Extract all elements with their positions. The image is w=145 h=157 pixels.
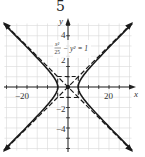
y-tick-label-neg4: −4 [56,124,66,134]
center-point [66,85,70,89]
x-tick-label-neg20: −20 [15,91,30,101]
equation-rest: − y² = 1 [63,44,88,53]
x-axis-label: x [133,89,138,99]
y-axis-label: y [58,16,63,26]
y-axis-arrow-icon [66,18,71,25]
y-tick-label-4: 4 [61,30,66,40]
equation-label: x² 25 − y² = 1 [53,40,91,58]
equation-numerator: x² [54,41,59,47]
y-tick-label-neg2: −2 [56,104,66,114]
x-tick-label-20: 20 [104,91,114,101]
hyperbola-graph: y x −20 20 4 2 −2 −4 x² 25 − y² = 1 [0,0,145,157]
equation-denominator: 25 [55,49,61,55]
